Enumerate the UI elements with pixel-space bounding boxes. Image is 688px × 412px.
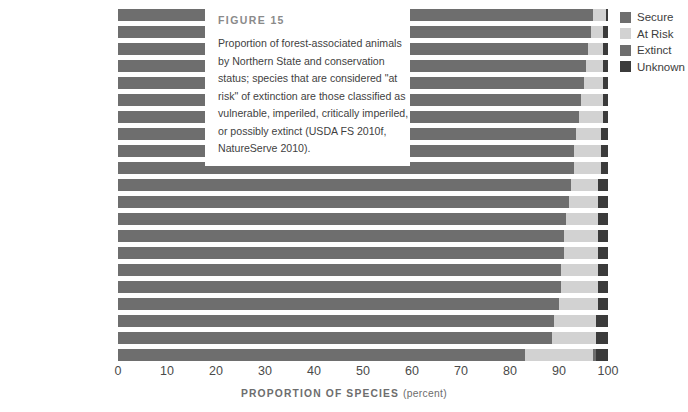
bar-segment-unknown <box>603 94 608 106</box>
x-tick-label: 30 <box>258 364 272 378</box>
legend: SecureAt RiskExtinctUnknown <box>620 9 688 75</box>
stacked-bar <box>118 264 608 276</box>
bar-segment-unknown <box>596 332 608 344</box>
bar-segment-unknown <box>603 43 608 55</box>
x-tick-label: 20 <box>209 364 223 378</box>
bar-segment-secure <box>118 196 569 208</box>
bar-segment-at-risk <box>564 230 598 242</box>
bar-segment-unknown <box>598 196 608 208</box>
legend-label: Secure <box>637 11 673 23</box>
bar-segment-at-risk <box>569 196 598 208</box>
x-tick-label: 60 <box>405 364 419 378</box>
x-tick-label: 100 <box>598 364 619 378</box>
bar-segment-at-risk <box>574 162 601 174</box>
stacked-bar <box>118 230 608 242</box>
legend-swatch-icon <box>620 45 631 56</box>
bar-segment-at-risk <box>584 77 604 89</box>
x-tick-label: 90 <box>552 364 566 378</box>
stacked-bar <box>118 349 608 361</box>
stacked-bar <box>118 281 608 293</box>
bar-segment-unknown <box>596 315 608 327</box>
legend-label: At Risk <box>637 28 673 40</box>
figure-caption-text: Proportion of forest-associated animals … <box>218 35 414 158</box>
x-tick-label: 0 <box>115 364 122 378</box>
bar-segment-secure <box>118 179 571 191</box>
x-tick-label: 50 <box>356 364 370 378</box>
bar-segment-unknown <box>598 230 608 242</box>
bar-segment-secure <box>118 213 566 225</box>
bar-segment-secure <box>118 349 525 361</box>
bar-segment-secure <box>118 315 554 327</box>
legend-label: Unknown <box>637 61 685 73</box>
legend-swatch-icon <box>620 12 631 23</box>
legend-item: Extinct <box>620 42 688 59</box>
bar-segment-unknown <box>601 128 608 140</box>
figure-15-chart: VermontIowaRhode IslandMinnesotaDelaware… <box>0 0 688 412</box>
bar-segment-at-risk <box>574 145 601 157</box>
bar-segment-unknown <box>603 26 608 38</box>
stacked-bar <box>118 298 608 310</box>
bar-segment-unknown <box>601 162 608 174</box>
figure-label: FIGURE 15 <box>218 14 410 26</box>
x-tick-label: 10 <box>160 364 174 378</box>
stacked-bar <box>118 213 608 225</box>
bar-segment-unknown <box>598 264 608 276</box>
bar-segment-at-risk <box>586 60 603 72</box>
bar-segment-at-risk <box>591 26 603 38</box>
bar-segment-secure <box>118 332 552 344</box>
bar-segment-unknown <box>603 111 608 123</box>
bar-segment-unknown <box>601 145 608 157</box>
x-axis: 0102030405060708090100 <box>118 364 608 380</box>
bar-segment-unknown <box>598 298 608 310</box>
bar-segment-unknown <box>598 281 608 293</box>
legend-label: Extinct <box>637 44 672 56</box>
bar-segment-at-risk <box>581 94 603 106</box>
bar-segment-unknown <box>596 349 608 361</box>
bar-segment-at-risk <box>552 332 596 344</box>
bar-segment-at-risk <box>554 315 596 327</box>
legend-item: Secure <box>620 9 688 26</box>
stacked-bar <box>118 332 608 344</box>
bar-segment-unknown <box>603 60 608 72</box>
legend-swatch-icon <box>620 28 631 39</box>
x-tick-label: 80 <box>503 364 517 378</box>
x-axis-title-text: PROPORTION OF SPECIES <box>241 388 399 399</box>
x-axis-title: PROPORTION OF SPECIES (percent) <box>0 388 688 399</box>
bar-segment-at-risk <box>566 213 598 225</box>
bar-segment-unknown <box>603 77 608 89</box>
figure-caption: FIGURE 15 Proportion of forest-associate… <box>205 6 410 166</box>
bar-segment-unknown <box>598 213 608 225</box>
bar-segment-at-risk <box>588 43 603 55</box>
stacked-bar <box>118 247 608 259</box>
bar-segment-secure <box>118 264 561 276</box>
bar-segment-unknown <box>598 247 608 259</box>
bar-segment-secure <box>118 298 559 310</box>
bar-segment-at-risk <box>579 111 604 123</box>
bar-segment-at-risk <box>525 349 594 361</box>
legend-item: At Risk <box>620 26 688 43</box>
bar-segment-unknown <box>598 179 608 191</box>
x-axis-unit: (percent) <box>403 388 447 399</box>
bar-segment-unknown <box>606 9 608 21</box>
stacked-bar <box>118 196 608 208</box>
bar-segment-at-risk <box>559 298 598 310</box>
legend-item: Unknown <box>620 59 688 76</box>
bar-segment-at-risk <box>561 264 598 276</box>
bar-segment-secure <box>118 247 564 259</box>
x-tick-label: 70 <box>454 364 468 378</box>
x-tick-label: 40 <box>307 364 321 378</box>
bar-segment-at-risk <box>593 9 605 21</box>
bar-segment-at-risk <box>576 128 601 140</box>
bar-segment-at-risk <box>571 179 598 191</box>
stacked-bar <box>118 179 608 191</box>
bar-segment-secure <box>118 281 561 293</box>
bar-segment-at-risk <box>564 247 598 259</box>
stacked-bar <box>118 315 608 327</box>
bar-segment-at-risk <box>561 281 598 293</box>
bar-segment-secure <box>118 230 564 242</box>
legend-swatch-icon <box>620 61 631 72</box>
